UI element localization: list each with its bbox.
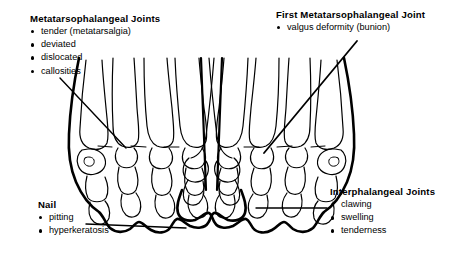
list-item-label: deviated [41,39,76,49]
list-item: callosities [30,65,160,78]
list-item: tender (metatarsalgia) [30,25,160,38]
annotation-symptom-list: tender (metatarsalgia) deviated dislocat… [30,25,160,78]
list-item-label: hyperkeratosis [49,225,109,235]
bullet-icon [331,216,334,219]
annotation-title: Interphalangeal Joints [330,185,435,198]
list-item: valgus deformity (bunion) [276,21,425,34]
annotation-symptom-list: clawing swelling tenderness [330,198,435,238]
annotation-title: Nail [38,198,109,211]
list-item-label: valgus deformity (bunion) [287,22,390,32]
list-item-label: tenderness [341,225,386,235]
bullet-icon [31,30,34,33]
list-item: swelling [330,211,435,224]
annotation-interphalangeal-joints: Interphalangeal Joints clawing swelling … [330,185,435,238]
list-item: clawing [330,198,435,211]
list-item-label: swelling [341,212,374,222]
annotation-title: First Metatarsophalangeal Joint [276,8,425,21]
bullet-icon [277,26,280,29]
annotation-symptom-list: valgus deformity (bunion) [276,21,425,34]
list-item-label: dislocated [41,52,82,62]
list-item: pitting [38,211,109,224]
bullet-icon [39,216,42,219]
annotation-title: Metatarsophalangeal Joints [30,12,160,25]
right-foot-drawing [177,58,354,232]
bullet-icon [31,70,34,73]
list-item-label: pitting [49,212,74,222]
annotation-first-metatarsophalangeal-joint: First Metatarsophalangeal Joint valgus d… [276,8,425,34]
bullet-icon [31,56,34,59]
list-item: hyperkeratosis [38,224,109,237]
bullet-icon [331,229,334,232]
bullet-icon [39,229,42,232]
list-item-label: tender (metatarsalgia) [41,26,131,36]
annotation-symptom-list: pitting hyperkeratosis [38,211,109,237]
list-item-label: callosities [41,66,81,76]
annotation-nail: Nail pitting hyperkeratosis [38,198,109,237]
bullet-icon [331,203,334,206]
list-item: deviated [30,38,160,51]
list-item: tenderness [330,224,435,237]
figure-canvas: Metatarsophalangeal Joints tender (metat… [0,0,460,254]
annotation-metatarsophalangeal-joints: Metatarsophalangeal Joints tender (metat… [30,12,160,78]
list-item: dislocated [30,51,160,64]
bullet-icon [31,43,34,46]
list-item-label: clawing [341,199,372,209]
